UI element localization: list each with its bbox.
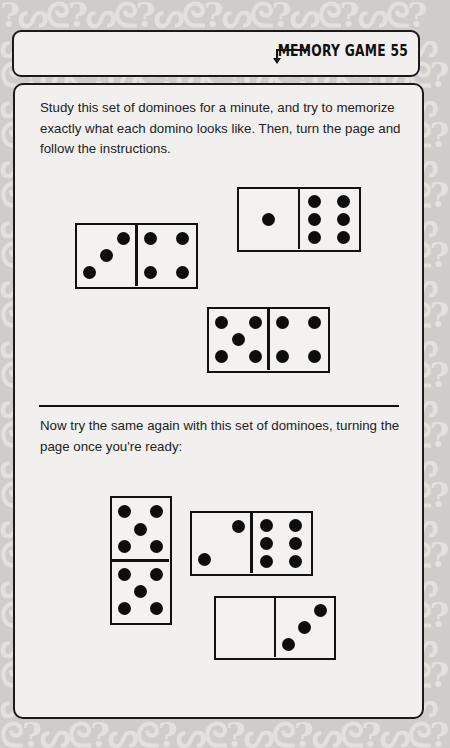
pip [150, 568, 163, 581]
pip [198, 553, 211, 566]
pip [249, 350, 262, 363]
pip [276, 350, 289, 363]
puzzle-panel: Study this set of dominoes for a minute,… [13, 83, 424, 719]
pip [100, 249, 113, 262]
pip [215, 350, 228, 363]
pip [215, 316, 228, 329]
domino-half-right [253, 513, 311, 573]
domino [207, 307, 330, 373]
pip [260, 519, 273, 532]
domino-half-right [138, 225, 196, 286]
pip [144, 232, 157, 245]
pip [118, 505, 131, 518]
pip [308, 195, 321, 208]
domino-half-top [112, 498, 169, 560]
pip [144, 266, 157, 279]
pip [232, 333, 245, 346]
page-header: MEMORY GAME 55 [12, 30, 420, 77]
pip [289, 537, 302, 550]
pip [289, 555, 302, 568]
pip [276, 316, 289, 329]
domino-half-left [216, 598, 275, 657]
pip [232, 520, 245, 533]
domino [75, 223, 198, 289]
domino-half-left [77, 225, 136, 286]
domino-half-bottom [112, 562, 169, 623]
domino-half-right [300, 189, 358, 249]
pip [260, 537, 273, 550]
pip [134, 523, 147, 536]
pip [289, 519, 302, 532]
pip [260, 555, 273, 568]
pip [337, 195, 350, 208]
pip [150, 540, 163, 553]
pip [298, 621, 311, 634]
pip [308, 213, 321, 226]
pip [337, 231, 350, 244]
pip [308, 350, 321, 363]
domino [190, 511, 313, 576]
domino [237, 187, 361, 252]
domino-half-right [276, 598, 333, 657]
page-title: MEMORY GAME 55 [278, 42, 408, 60]
pip [83, 266, 96, 279]
domino-half-left [239, 189, 299, 249]
pip [249, 316, 262, 329]
pip [337, 213, 350, 226]
pip [262, 213, 275, 226]
domino-half-left [209, 309, 268, 370]
pip [118, 540, 131, 553]
domino [214, 596, 336, 660]
pip [150, 505, 163, 518]
domino [110, 496, 172, 625]
pip [308, 316, 321, 329]
domino-half-right [270, 309, 328, 370]
pip [314, 604, 327, 617]
pip [308, 231, 321, 244]
pip [134, 585, 147, 598]
pip [282, 638, 295, 651]
pip [117, 232, 130, 245]
domino-half-left [192, 513, 251, 573]
pip [176, 266, 189, 279]
pip [118, 602, 131, 615]
instructions-first-set: Study this set of dominoes for a minute,… [40, 98, 410, 160]
pip [118, 568, 131, 581]
instructions-second-set: Now try the same again with this set of … [40, 416, 410, 457]
section-divider [39, 405, 399, 407]
pip [176, 232, 189, 245]
pip [150, 602, 163, 615]
